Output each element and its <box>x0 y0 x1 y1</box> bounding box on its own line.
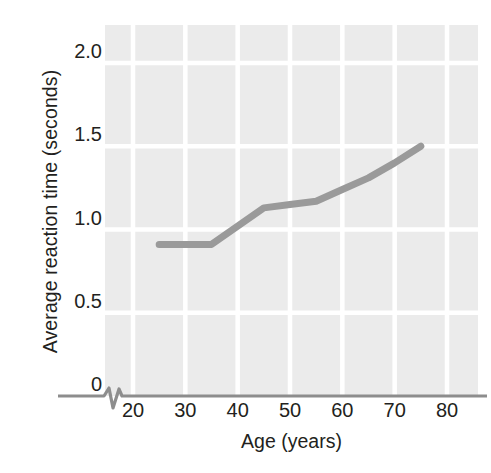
figure-chart: Average reaction time (seconds) 00.51.01… <box>0 0 491 473</box>
x-tick-label: 80 <box>417 400 477 420</box>
gridlines-vertical <box>133 25 447 396</box>
x-tick-label: 30 <box>155 400 215 420</box>
plot-area <box>105 25 478 396</box>
y-tick-label: 1.0 <box>42 208 102 228</box>
x-tick-label: 60 <box>312 400 372 420</box>
x-axis-title: Age (years) <box>105 430 478 453</box>
y-tick-label: 1.5 <box>42 124 102 144</box>
y-tick-label: 0.5 <box>42 291 102 311</box>
y-tick-label: 0 <box>42 374 102 394</box>
plot-svg <box>105 25 478 396</box>
x-tick-label: 70 <box>365 400 425 420</box>
y-tick-label-group: 00.51.01.52.0 <box>28 0 102 473</box>
x-tick-label: 50 <box>260 400 320 420</box>
y-tick-label: 2.0 <box>42 41 102 61</box>
x-tick-label: 20 <box>103 400 163 420</box>
x-tick-label: 40 <box>208 400 268 420</box>
